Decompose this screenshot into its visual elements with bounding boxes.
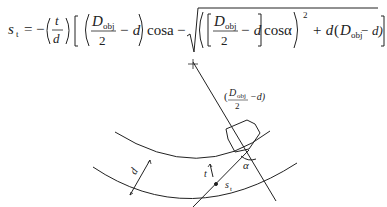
frac-two: 2 bbox=[99, 33, 106, 48]
label-st: s bbox=[225, 179, 229, 190]
paren-right bbox=[66, 18, 69, 44]
formula-equals: = bbox=[24, 21, 32, 37]
formula-minus: − bbox=[36, 21, 44, 37]
formula: s t = − t d D obj 2 − d cosa − D obj 2 −… bbox=[8, 8, 384, 52]
st-point bbox=[215, 183, 218, 186]
svg-text:2: 2 bbox=[221, 33, 228, 48]
cos-a: cosa bbox=[147, 22, 174, 38]
frac-D: D bbox=[91, 13, 103, 29]
label-alpha: α bbox=[243, 159, 249, 171]
geometry-diagram bbox=[93, 59, 297, 207]
label-d: d bbox=[127, 165, 140, 176]
outer-wall-arc bbox=[93, 163, 297, 199]
formula-lhs: s bbox=[8, 21, 14, 37]
power-2: 2 bbox=[303, 10, 308, 20]
svg-text:D: D bbox=[213, 13, 225, 29]
cos-alpha: cosα bbox=[264, 22, 292, 38]
svg-text:obj: obj bbox=[225, 21, 237, 31]
inner-wall-arc bbox=[115, 131, 270, 158]
svg-text:obj: obj bbox=[237, 92, 246, 100]
frac-D-sub: obj bbox=[103, 21, 115, 31]
svg-text:− d: − d bbox=[240, 22, 262, 38]
svg-text:−d): −d) bbox=[250, 91, 266, 103]
formula-minus-2: − bbox=[177, 22, 185, 38]
d-dimension bbox=[130, 160, 150, 195]
plus-d: + d bbox=[312, 22, 334, 38]
formula-and-diagram: s t = − t d D obj 2 − d cosa − D obj 2 −… bbox=[0, 0, 387, 207]
radius-line bbox=[193, 62, 276, 201]
bracket-left bbox=[75, 16, 78, 46]
svg-text:− d): − d) bbox=[360, 23, 383, 38]
minus-d: − d bbox=[119, 22, 141, 38]
svg-text:(: ( bbox=[334, 22, 339, 39]
diagram-labels: ( D obj 2 −d) d t s t α bbox=[127, 87, 266, 193]
formula-lhs-sub: t bbox=[16, 29, 19, 39]
paren-left bbox=[47, 18, 50, 44]
svg-text:(: ( bbox=[224, 90, 228, 103]
svg-text:D: D bbox=[339, 22, 351, 38]
frac-t-den: d bbox=[53, 31, 60, 46]
svg-text:t: t bbox=[230, 185, 232, 193]
svg-text:2: 2 bbox=[235, 101, 240, 111]
frac-t-num: t bbox=[55, 13, 59, 28]
label-t: t bbox=[204, 168, 207, 179]
label-D: D bbox=[228, 87, 237, 98]
